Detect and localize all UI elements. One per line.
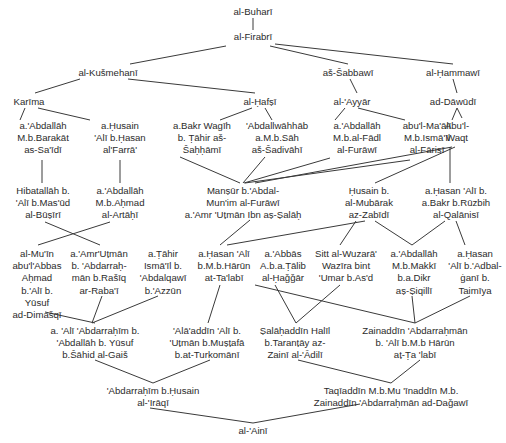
connector-line	[180, 157, 240, 183]
node-label-line: al-Artāḥī	[95, 209, 144, 221]
node-label-line: aṭ-Ṭa 'labī	[362, 349, 467, 361]
connector-line	[456, 221, 465, 245]
node-amr_rabai: a.'Amr'Uṭmānb. 'Abdarraḥ-mān b.Rašīqar-R…	[70, 248, 128, 297]
node-label-line: M.b.al-Fādl	[333, 132, 381, 144]
node-label-line: Abu'l-	[445, 120, 469, 132]
connector-line	[220, 108, 252, 120]
node-label-line: b.'Azzūn	[140, 285, 187, 297]
connector-line	[358, 108, 405, 120]
node-label-line: a.M.b.Sāh	[246, 132, 308, 144]
node-husain_farra: a.Ḥusain'Alī b.Ḥasanal'Farrā'	[94, 120, 145, 157]
node-aini: al-'Ainī	[238, 425, 267, 437]
connector-line	[452, 108, 457, 120]
node-label-line: a.'Amr 'Uṭmān Ibn aṣ-Ṣalāḥ	[185, 209, 302, 221]
node-label-line: M.b.Makkī	[390, 260, 437, 272]
node-label-line: az-Zabīdī	[345, 209, 393, 221]
node-hibatallah: Hibatallāh b.'Alī b.Mas'ūdal-Būṣīrī	[16, 185, 70, 222]
node-label-line: as-Sa'īdī	[17, 144, 69, 156]
connector-line	[92, 296, 102, 323]
connector-line	[35, 79, 80, 93]
node-abdallah_artahi: a.'AbdallāhM.b.Aḥmadal-Artāḥī	[95, 185, 144, 222]
node-label-line: al-Būṣīrī	[16, 209, 70, 221]
connector-line	[220, 220, 250, 245]
connector-line	[130, 46, 226, 64]
node-label-line: Aḥmad	[12, 272, 61, 284]
connector-line	[208, 285, 220, 323]
node-bakr_sahhami: a.Bakr Wagīhb. Ṭāhir aš-Šaḥḥāmī	[173, 120, 231, 157]
node-label-line: Waqt	[445, 132, 469, 144]
node-label-line: a.'Abdallāh	[95, 185, 144, 197]
node-label-line: Karīma	[14, 96, 45, 108]
node-label-line: b. 'Abdarraḥ-	[70, 260, 128, 272]
node-alaaddin: 'Alā'addīn 'Alī b.'Uṭmān b.Muṣṭafāb.at-T…	[170, 325, 245, 362]
node-label-line: al-'Irāqī	[107, 397, 200, 409]
node-label-line: a.'Amr'Uṭmān	[70, 248, 128, 260]
connector-line	[412, 296, 415, 323]
node-label-line: Zainī al-'Ādilī	[260, 349, 330, 361]
connector-line	[227, 221, 365, 245]
node-label-line: Sitt al-Wuzarā'	[315, 248, 377, 260]
node-label-line: Mun'im al-Furāwī	[185, 197, 302, 209]
node-label-line: a.'Abbās	[260, 248, 306, 260]
node-label-line: A.b.a.Ṭālib	[260, 260, 306, 272]
node-label-line: 'Abdarraḥīm b.Ḥusain	[107, 385, 200, 397]
node-label-line: al-Firabrī	[234, 31, 272, 43]
node-firabri: al-Firabrī	[234, 31, 272, 43]
node-label-line: al-Kušmehanī	[78, 67, 137, 79]
node-label-line: a.Ḥasan 'Alī	[198, 248, 251, 260]
connector-line	[95, 360, 153, 383]
connector-line	[415, 296, 470, 323]
connector-line	[457, 108, 462, 118]
node-tahir: a.ṬāhirIsmā'īl b.'Abdalqawīb.'Azzūn	[140, 248, 187, 297]
node-label-line: 'Abdallwāhhāb	[246, 120, 308, 132]
node-label-line: al-Ḥammawī	[426, 67, 480, 79]
node-abdallah_sadi: a.'AbdallāhM.b.Barakātas-Sa'īdī	[17, 120, 69, 157]
connector-line	[265, 108, 272, 120]
node-dawudi: ad-Dāwūdī	[430, 96, 476, 108]
connector-line	[128, 79, 255, 93]
connector-line	[350, 79, 357, 93]
node-abdalwahhab: 'Abdallwāhhāba.M.b.Sāhaš-Šadivāhī	[246, 120, 308, 157]
node-label-line: a.Ḥusain	[94, 120, 145, 132]
node-label-line: a. 'Alī 'Abdarraḥīm b.	[51, 325, 140, 337]
node-salahaddin: Ṣalāḥaddīn Halīlb.Taranṭāy az-Zainī al-'…	[260, 325, 330, 362]
connector-line	[298, 360, 391, 383]
connector-line	[38, 222, 110, 245]
node-abbas_hagar: a.'AbbāsA.b.a.Ṭālibal-Ḥaǧǧār	[260, 248, 306, 285]
connector-line	[245, 160, 410, 183]
node-abul_waqt: Abu'l-Waqt	[445, 120, 469, 144]
node-hasan_taimiya: a.Ḥasan'Alī b.'Adbal-ġanī b.Taimīya	[448, 248, 501, 297]
connector-line	[375, 221, 412, 245]
node-label-line: al-Ḥaǧǧār	[260, 272, 306, 284]
node-label-line: ġanī b.	[448, 272, 501, 284]
node-hafsi: al-Ḥafṣī	[243, 96, 276, 108]
connector-line	[453, 79, 457, 93]
node-karima: Karīma	[14, 96, 45, 108]
node-label-line: b.M.b.Hārūn	[198, 260, 251, 272]
connector-line	[243, 157, 265, 183]
node-label-line: b.a.Dikr	[390, 272, 437, 284]
node-label-line: 'Alī b.Ḥasan	[94, 132, 145, 144]
node-label-line: 'Abdalqawī	[140, 272, 187, 284]
node-label-line: a.'Abdallāh	[333, 120, 381, 132]
node-label-line: 'Uṭmān b.Muṣṭafā	[170, 337, 245, 349]
node-label-line: Hibatallāh b.	[16, 185, 70, 197]
node-label-line: ar-Raba'ī	[70, 285, 128, 297]
node-label-line: a.'Abdallāh	[17, 120, 69, 132]
node-label-line: Ḥusain b.	[345, 185, 393, 197]
node-label-line: al-Mu'īn	[12, 248, 61, 260]
node-label-line: al-Ḥafṣī	[243, 96, 276, 108]
node-label-line: Šaḥḥāmī	[173, 144, 231, 156]
node-label-line: b.Šāhid al-Gaiš	[51, 349, 140, 361]
connector-line	[153, 360, 210, 383]
connector-line	[92, 296, 158, 323]
node-label-line: b.Taranṭāy az-	[260, 337, 330, 349]
node-label-line: Taqīaddīn M.b.Mu 'īnaddīn M.b.	[314, 385, 468, 397]
node-label-line: al'Farrā'	[94, 144, 145, 156]
node-label-line: b.at-Turkomānī	[170, 349, 245, 361]
node-husain_zabidi: Ḥusain b.al-Mubārakaz-Zabīdī	[345, 185, 393, 222]
node-taqiaddin: Taqīaddīn M.b.Mu 'īnaddīn M.b.Zainaddīn …	[314, 385, 468, 409]
node-label-line: Wazīra bint	[315, 260, 377, 272]
connector-line	[150, 408, 253, 423]
node-label-line: al-'Ainī	[238, 425, 267, 437]
